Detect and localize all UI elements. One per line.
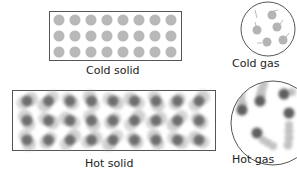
hot-solid-panel [13, 90, 216, 151]
cold-solid-panel [50, 12, 182, 61]
hot-solid-particles [17, 90, 211, 151]
cold-gas-label: Cold gas [232, 57, 279, 70]
hot-solid-label: Hot solid [85, 157, 133, 170]
cold-solid-label: Cold solid [86, 64, 140, 77]
cold-gas-panel [241, 2, 295, 56]
hot-gas-label: Hot gas [232, 153, 274, 166]
